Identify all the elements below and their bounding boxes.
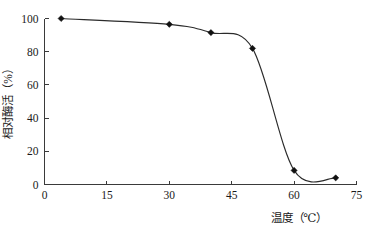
y-tick-label: 0 (33, 179, 39, 191)
enzyme-activity-chart: 01530456075 020406080100 温度（℃） 相对酶活（%） (0, 0, 374, 231)
y-tick-label: 20 (27, 145, 39, 157)
y-tick-label: 60 (27, 79, 39, 91)
y-axis-ticks (45, 19, 49, 185)
x-tick-label: 45 (226, 189, 238, 201)
x-tick-label: 60 (288, 189, 300, 201)
axis-lines (45, 19, 357, 185)
x-axis-tick-labels: 01530456075 (42, 189, 363, 201)
series-group (58, 15, 339, 182)
series-markers-relative-enzyme-activity (58, 15, 339, 181)
y-tick-label: 100 (21, 13, 39, 25)
x-tick-label: 75 (351, 189, 363, 201)
axes-group: 01530456075 020406080100 (21, 13, 362, 201)
data-point-marker (333, 175, 339, 181)
series-line-relative-enzyme-activity (61, 19, 336, 183)
y-axis-title: 相对酶活（%） (1, 63, 14, 139)
y-tick-label: 40 (27, 112, 39, 124)
x-tick-label: 0 (42, 189, 48, 201)
x-tick-label: 30 (164, 189, 176, 201)
data-point-marker (249, 45, 255, 51)
x-axis-title: 温度（℃） (271, 211, 328, 224)
chart-canvas: 01530456075 020406080100 温度（℃） 相对酶活（%） (0, 0, 374, 231)
y-axis-tick-labels: 020406080100 (21, 13, 39, 191)
data-point-marker (208, 30, 214, 36)
y-tick-label: 80 (27, 46, 39, 58)
data-point-marker (166, 21, 172, 27)
x-tick-label: 15 (101, 189, 113, 201)
data-point-marker (58, 15, 64, 21)
